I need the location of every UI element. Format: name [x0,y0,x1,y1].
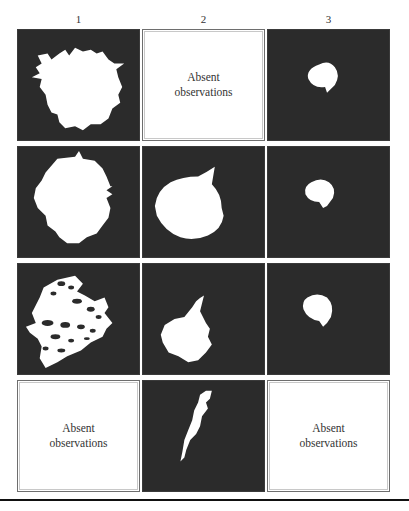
column-header-1: 1 [17,12,140,26]
panel-r3-c1 [17,263,140,375]
large-irregular-blob-shape [18,30,139,140]
absent-observations-label: Absent observations [299,421,357,451]
panel-r1-c2-absent: Absent observations [142,29,265,141]
column-header-3: 3 [267,12,390,26]
panel-r2-c2 [142,146,265,258]
teardrop-blob-shape [143,147,264,257]
elongated-sliver-shape [143,381,264,491]
small-round-blob-shape [268,30,389,140]
panel-r3-c2 [142,263,265,375]
absent-observations-label: Absent observations [174,70,232,100]
panel-r3-c3 [267,263,390,375]
small-round-blob-shape [268,264,389,374]
fragmented-streaked-blob-shape [18,264,139,374]
large-irregular-blob-shape [18,147,139,257]
panel-r1-c1 [17,29,140,141]
small-round-blob-shape [268,147,389,257]
panel-r4-c2 [142,380,265,492]
panel-r2-c3 [267,146,390,258]
panel-r4-c3-absent: Absent observations [267,380,390,492]
teardrop-blob-shape [143,264,264,374]
panel-r4-c1-absent: Absent observations [17,380,140,492]
absent-observations-label: Absent observations [49,421,107,451]
bottom-rule [0,499,409,501]
panel-r2-c1 [17,146,140,258]
panel-r1-c3 [267,29,390,141]
column-header-2: 2 [142,12,265,26]
